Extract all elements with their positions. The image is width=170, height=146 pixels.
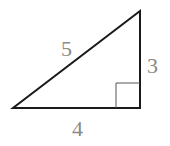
horizontal-leg-label: 4	[72, 116, 83, 141]
vertical-leg-label: 3	[147, 53, 158, 78]
triangle	[13, 11, 140, 108]
right-angle-marker	[116, 83, 140, 108]
hypotenuse-label: 5	[61, 36, 72, 61]
triangle-diagram: 5 3 4	[0, 0, 170, 146]
